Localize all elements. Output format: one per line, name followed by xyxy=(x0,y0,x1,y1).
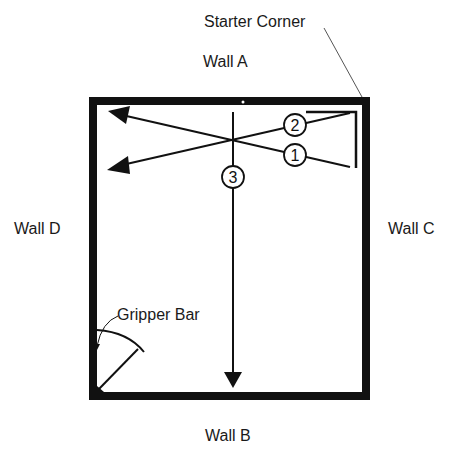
door-leaf xyxy=(98,349,138,390)
wall-b-label: Wall B xyxy=(205,428,251,444)
arrowhead-3 xyxy=(224,372,242,388)
starter-corner-label: Starter Corner xyxy=(204,14,305,30)
step-2-number: 2 xyxy=(291,117,300,134)
stretch-line-1 xyxy=(122,115,350,167)
arrowhead-1 xyxy=(108,106,130,124)
wall-d-label: Wall D xyxy=(14,221,61,237)
arrowhead-2 xyxy=(107,156,130,174)
starter-corner-leader xyxy=(324,28,362,97)
step-1-number: 1 xyxy=(291,147,300,164)
wall-c-label: Wall C xyxy=(388,221,435,237)
gripper-bar-label: Gripper Bar xyxy=(117,307,200,323)
wall-a-label: Wall A xyxy=(203,54,248,70)
wall-a-marker-dot xyxy=(242,101,245,104)
stretch-line-2 xyxy=(122,113,350,165)
step-3-number: 3 xyxy=(229,169,238,186)
